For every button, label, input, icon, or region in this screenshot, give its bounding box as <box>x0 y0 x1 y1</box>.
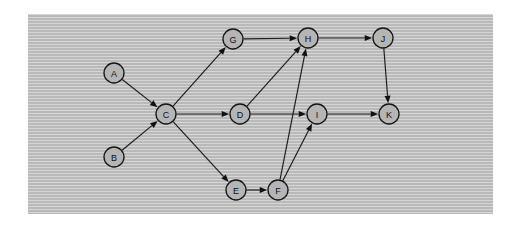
graph-node-j[interactable]: J <box>373 28 393 48</box>
node-label-g: G <box>229 35 236 45</box>
arrowhead-j-to-k-icon <box>385 96 391 104</box>
node-label-k: K <box>386 110 392 120</box>
node-label-d: D <box>237 110 244 120</box>
graph-node-h[interactable]: H <box>298 28 318 48</box>
arrowhead-i-to-k-icon <box>371 111 379 117</box>
arrowhead-d-to-i-icon <box>299 111 307 117</box>
arrowhead-f-to-h-icon <box>302 49 308 57</box>
diagram-canvas: ABCDEFGHIJK <box>0 0 519 230</box>
arrowhead-f-to-i-icon <box>306 124 312 132</box>
graph-node-k[interactable]: K <box>379 104 399 124</box>
graph-node-a[interactable]: A <box>104 63 124 83</box>
directed-graph: ABCDEFGHIJK <box>0 0 519 230</box>
node-label-f: F <box>275 186 281 196</box>
graph-node-f[interactable]: F <box>268 180 288 200</box>
graph-node-d[interactable]: D <box>230 104 250 124</box>
arrowhead-g-to-h-icon <box>290 35 298 41</box>
node-label-b: B <box>111 153 117 163</box>
graph-node-c[interactable]: C <box>156 104 176 124</box>
edge-a-to-c <box>122 80 151 103</box>
node-label-e: E <box>233 186 239 196</box>
arrowhead-c-to-d-icon <box>222 111 230 117</box>
edge-c-to-e <box>173 122 223 177</box>
edge-c-to-g <box>173 53 221 107</box>
node-label-i: I <box>316 110 319 120</box>
arrowhead-e-to-f-icon <box>260 187 268 193</box>
graph-node-e[interactable]: E <box>226 180 246 200</box>
edge-b-to-c <box>122 126 152 151</box>
graph-node-b[interactable]: B <box>104 147 124 167</box>
edge-j-to-k <box>384 48 388 95</box>
node-label-j: J <box>381 34 386 44</box>
edge-f-to-i <box>283 130 309 180</box>
node-label-h: H <box>305 34 312 44</box>
node-label-a: A <box>111 69 117 79</box>
graph-node-g[interactable]: G <box>223 29 243 49</box>
edge-g-to-h <box>244 38 290 39</box>
arrowhead-a-to-c-icon <box>150 100 158 107</box>
node-label-c: C <box>163 110 170 120</box>
arrowhead-h-to-j-icon <box>365 35 373 41</box>
edge-d-to-h <box>247 52 296 107</box>
graph-node-i[interactable]: I <box>307 104 327 124</box>
